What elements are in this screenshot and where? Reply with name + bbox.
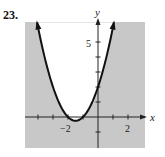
graph: x y −2 2 5 <box>0 0 165 157</box>
y-axis-arrow-icon <box>96 18 101 25</box>
y-axis-label: y <box>94 6 100 18</box>
x-axis-label: x <box>149 111 155 123</box>
tick-label-neg2: −2 <box>60 123 71 134</box>
tick-label-2: 2 <box>125 123 130 134</box>
tick-label-5: 5 <box>86 38 91 49</box>
